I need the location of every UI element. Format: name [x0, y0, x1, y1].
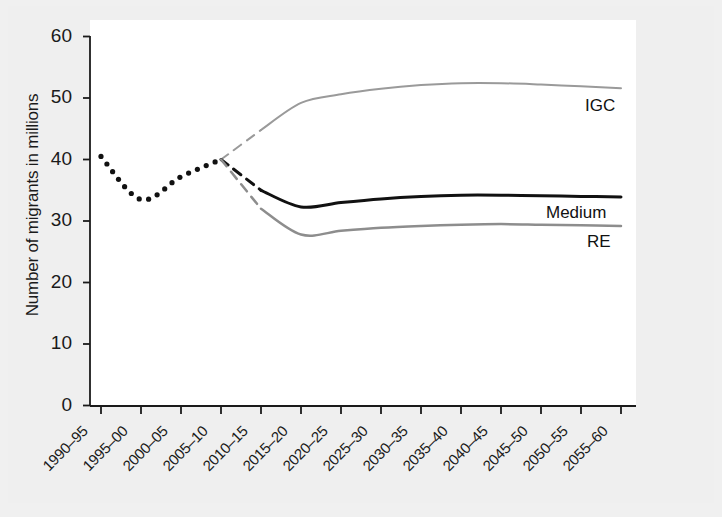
historical-dot: [146, 197, 151, 202]
historical-dot: [204, 163, 209, 168]
historical-dot: [116, 177, 121, 182]
historical-dot: [162, 186, 167, 191]
series-label-igc: IGC: [585, 96, 615, 116]
series-label-medium: Medium: [546, 203, 606, 223]
chart-figure: Number of migrants in millions 60 50 40 …: [0, 0, 722, 517]
series-label-re: RE: [587, 232, 611, 252]
historical-dot: [137, 196, 142, 201]
historical-dot: [213, 159, 218, 164]
historical-dot: [169, 180, 174, 185]
y-tick-label-60: 60: [28, 25, 72, 47]
historical-dot: [104, 161, 109, 166]
y-axis-ticks: [83, 37, 90, 406]
historical-dot: [98, 154, 103, 159]
y-tick-label-10: 10: [28, 332, 72, 354]
historical-dot: [186, 171, 191, 176]
historical-dot: [110, 169, 115, 174]
x-axis-ticks: [101, 406, 621, 414]
y-tick-label-40: 40: [28, 148, 72, 170]
historical-dot: [129, 191, 134, 196]
y-tick-label-0: 0: [28, 394, 72, 416]
historical-dot: [195, 167, 200, 172]
historical-dot: [122, 184, 127, 189]
historical-dot: [177, 175, 182, 180]
historical-dot: [155, 192, 160, 197]
y-tick-label-20: 20: [28, 271, 72, 293]
y-tick-label-50: 50: [28, 86, 72, 108]
y-tick-label-30: 30: [28, 209, 72, 231]
